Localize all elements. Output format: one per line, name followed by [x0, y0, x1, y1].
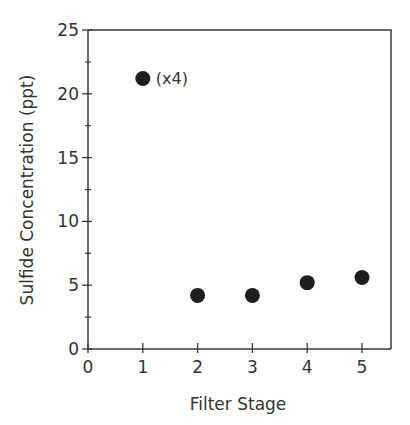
y-tick-label: 15 [57, 148, 79, 168]
y-tick-label: 25 [57, 20, 79, 40]
axis-lines [88, 30, 391, 349]
x-axis: 012345 [83, 343, 368, 377]
x-tick-label: 5 [357, 357, 368, 377]
annotations: (x4) [156, 69, 188, 88]
x-tick-label: 1 [137, 357, 148, 377]
data-point [135, 71, 150, 86]
x-tick-label: 2 [192, 357, 203, 377]
y-tick-label: 5 [68, 275, 79, 295]
point-annotation: (x4) [156, 69, 188, 88]
data-point [190, 288, 205, 303]
data-point [355, 270, 370, 285]
scatter-chart: 012345 0510152025 (x4) Filter Stage Sulf… [0, 0, 410, 425]
y-axis: 0510152025 [57, 20, 92, 359]
data-point [300, 275, 315, 290]
y-tick-label: 0 [68, 339, 79, 359]
y-tick-label: 20 [57, 84, 79, 104]
y-tick-label: 10 [57, 211, 79, 231]
x-axis-title: Filter Stage [190, 394, 287, 414]
x-tick-label: 0 [83, 357, 94, 377]
plot-frame [88, 30, 391, 349]
data-points [135, 71, 369, 303]
x-tick-label: 3 [247, 357, 258, 377]
data-point [245, 288, 260, 303]
x-tick-label: 4 [302, 357, 313, 377]
y-axis-title: Sulfide Concentration (ppt) [17, 75, 37, 306]
